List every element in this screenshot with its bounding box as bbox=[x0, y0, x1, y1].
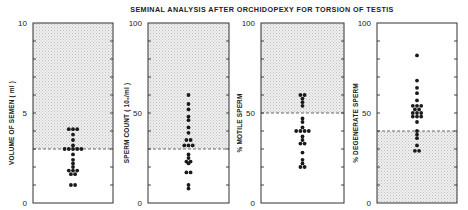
data-point bbox=[187, 156, 191, 160]
data-point bbox=[301, 120, 305, 124]
data-point bbox=[415, 111, 419, 115]
data-point bbox=[419, 104, 423, 108]
data-point bbox=[417, 108, 421, 112]
data-point bbox=[67, 127, 71, 131]
normal-range-shading bbox=[148, 23, 229, 149]
data-point bbox=[303, 129, 307, 133]
data-point bbox=[71, 133, 75, 137]
data-point bbox=[411, 115, 415, 119]
data-point bbox=[415, 104, 419, 108]
data-point bbox=[73, 183, 77, 187]
y-tick-mid: 50 bbox=[246, 109, 255, 118]
panel-3: 100500% MOTILE SPERM bbox=[236, 19, 344, 208]
data-point bbox=[301, 104, 305, 108]
data-point bbox=[187, 93, 191, 97]
data-point bbox=[75, 127, 79, 131]
data-point bbox=[71, 144, 75, 148]
data-point bbox=[187, 115, 191, 119]
data-point bbox=[80, 147, 84, 151]
data-point bbox=[303, 142, 307, 146]
data-point bbox=[71, 158, 75, 162]
y-tick-mid: 5 bbox=[23, 109, 28, 118]
data-point bbox=[69, 172, 73, 176]
data-point bbox=[415, 115, 419, 119]
data-point bbox=[187, 162, 191, 166]
data-point bbox=[415, 136, 419, 140]
y-tick-max: 100 bbox=[358, 19, 372, 28]
data-point bbox=[187, 144, 191, 148]
data-point bbox=[187, 131, 191, 135]
data-point bbox=[71, 162, 75, 166]
data-point bbox=[411, 111, 415, 115]
y-tick-zero: 0 bbox=[23, 199, 28, 208]
panel-2: 100500SPERM COUNT ( 10₆/ml ) bbox=[123, 19, 229, 208]
data-point bbox=[303, 165, 307, 169]
data-point bbox=[301, 117, 305, 121]
data-point bbox=[415, 129, 419, 133]
data-point bbox=[189, 171, 193, 175]
y-axis-label: VOLUME OF SEMEN ( ml ) bbox=[8, 81, 16, 165]
data-point bbox=[182, 144, 186, 148]
data-point bbox=[71, 153, 75, 157]
data-point bbox=[299, 165, 303, 169]
data-point bbox=[301, 100, 305, 104]
data-point bbox=[187, 187, 191, 191]
y-tick-max: 10 bbox=[18, 19, 27, 28]
chart-title: SEMINAL ANALYSIS AFTER ORCHIDOPEXY FOR T… bbox=[130, 5, 394, 14]
data-point bbox=[303, 93, 307, 97]
data-point bbox=[294, 129, 298, 133]
data-point bbox=[415, 91, 419, 95]
data-point bbox=[71, 165, 75, 169]
data-point bbox=[301, 135, 305, 139]
data-point bbox=[75, 147, 79, 151]
y-tick-zero: 0 bbox=[138, 199, 143, 208]
y-tick-mid: 50 bbox=[362, 109, 371, 118]
data-point bbox=[191, 144, 195, 148]
data-point bbox=[71, 127, 75, 131]
data-point bbox=[415, 99, 419, 103]
data-point bbox=[187, 183, 191, 187]
data-point bbox=[299, 93, 303, 97]
data-point bbox=[73, 172, 77, 176]
data-point bbox=[415, 133, 419, 137]
data-point bbox=[415, 79, 419, 83]
y-tick-max: 100 bbox=[242, 19, 256, 28]
data-point bbox=[187, 126, 191, 130]
data-point bbox=[415, 144, 419, 148]
data-point bbox=[187, 102, 191, 106]
data-point bbox=[185, 138, 189, 142]
data-point bbox=[187, 153, 191, 157]
data-point bbox=[299, 142, 303, 146]
data-point bbox=[187, 108, 191, 112]
data-point bbox=[307, 129, 311, 133]
data-point bbox=[69, 183, 73, 187]
data-point bbox=[301, 158, 305, 162]
panels: 1050VOLUME OF SEMEN ( ml )100500SPERM CO… bbox=[8, 19, 457, 208]
data-point bbox=[71, 169, 75, 173]
data-point bbox=[419, 111, 423, 115]
y-axis-label: SPERM COUNT ( 10₆/ml ) bbox=[123, 83, 131, 163]
data-point bbox=[419, 115, 423, 119]
data-point bbox=[301, 151, 305, 155]
data-point bbox=[301, 126, 305, 130]
data-point bbox=[63, 147, 67, 151]
y-tick-zero: 0 bbox=[367, 199, 372, 208]
y-axis-label: % DEGENERATE SPERM bbox=[352, 83, 359, 162]
data-point bbox=[71, 138, 75, 142]
data-point bbox=[411, 104, 415, 108]
data-point bbox=[67, 147, 71, 151]
panel-1: 1050VOLUME OF SEMEN ( ml ) bbox=[8, 19, 113, 208]
data-point bbox=[301, 97, 305, 101]
data-point bbox=[185, 171, 189, 175]
data-point bbox=[189, 138, 193, 142]
data-point bbox=[299, 129, 303, 133]
data-point bbox=[415, 120, 419, 124]
y-tick-mid: 50 bbox=[133, 109, 142, 118]
data-point bbox=[415, 86, 419, 90]
data-point bbox=[415, 54, 419, 58]
y-tick-zero: 0 bbox=[251, 199, 256, 208]
data-point bbox=[75, 169, 79, 173]
data-point bbox=[67, 169, 71, 173]
y-axis-label: % MOTILE SPERM bbox=[236, 94, 243, 153]
data-point bbox=[417, 149, 421, 153]
